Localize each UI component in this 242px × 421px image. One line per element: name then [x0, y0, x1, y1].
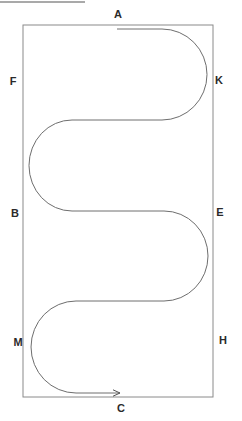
label-f: F: [10, 76, 17, 87]
label-k: K: [215, 75, 223, 86]
label-h: H: [219, 335, 227, 346]
serpentine-path-diagram: [0, 0, 242, 421]
label-m: M: [13, 337, 22, 348]
serpentine-track-path: [29, 29, 208, 393]
label-b: B: [11, 208, 19, 219]
label-e: E: [216, 207, 223, 218]
label-c: C: [117, 403, 125, 414]
label-a: A: [114, 9, 122, 20]
